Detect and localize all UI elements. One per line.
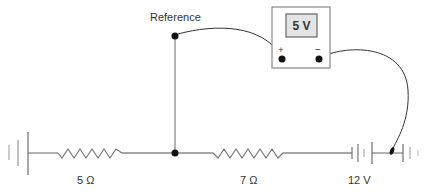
negative-probe-lead [321,50,408,150]
left-battery-symbol [9,132,28,175]
resistor-7-ohm-label: 7 Ω [240,174,257,186]
negative-probe-tip [389,147,395,156]
reference-node-dot [172,33,179,40]
resistor-5-ohm [58,149,122,158]
battery-12v-label: 12 V [348,174,371,186]
voltmeter-reading: 5 V [292,19,310,33]
negative-terminal [316,56,323,63]
positive-terminal-label: + [278,45,283,55]
circuit-diagram: 5 Ω 7 Ω 12 V Reference 5 V + − [0,0,427,194]
battery-12v-symbol [352,142,372,164]
resistor-5-ohm-label: 5 Ω [77,174,94,186]
voltmeter: 5 V + − [272,7,330,68]
junction-node-dot [172,150,179,157]
right-battery-symbol [403,144,418,162]
reference-label: Reference [150,11,201,23]
positive-terminal [279,56,286,63]
negative-terminal-label: − [315,44,321,55]
positive-probe-lead [178,28,281,56]
resistor-7-ohm [213,149,283,158]
